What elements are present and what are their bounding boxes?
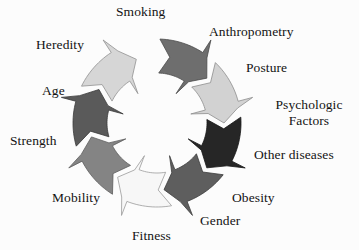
- label-obesity: Obesity: [232, 190, 275, 205]
- cycle-diagram-figure: SmokingAnthropometryPosturePsychologic F…: [0, 0, 359, 250]
- label-other_diseases: Other diseases: [254, 147, 334, 162]
- label-strength: Strength: [10, 133, 57, 148]
- label-posture: Posture: [246, 60, 287, 75]
- arrow-group: [61, 39, 252, 215]
- label-heredity: Heredity: [36, 37, 84, 52]
- arrow-top-left: [82, 40, 138, 101]
- label-smoking: Smoking: [116, 4, 165, 19]
- label-fitness: Fitness: [132, 228, 171, 243]
- label-psychologic: Psychologic Factors: [259, 97, 359, 128]
- label-age: Age: [42, 83, 65, 98]
- label-mobility: Mobility: [52, 190, 100, 205]
- label-anthropometry: Anthropometry: [209, 24, 294, 39]
- label-gender: Gender: [200, 213, 240, 228]
